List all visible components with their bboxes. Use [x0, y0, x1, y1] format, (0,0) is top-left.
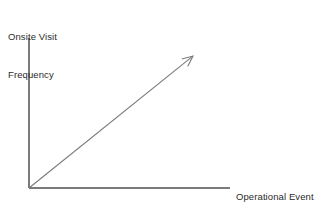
diagram-canvas: Onsite Visit Frequency Operational Event…	[0, 0, 326, 206]
y-axis-label-line-2: Frequency	[8, 69, 57, 82]
y-axis-label: Onsite Visit Frequency	[8, 6, 57, 106]
x-axis-label-line-1: Operational Event	[236, 191, 314, 204]
y-axis-label-line-1: Onsite Visit	[8, 31, 57, 44]
x-axis-label: Operational Event Negative Severity	[236, 166, 314, 206]
